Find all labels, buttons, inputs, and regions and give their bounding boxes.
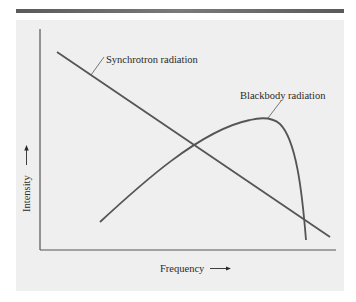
blackbody-leader	[268, 101, 281, 118]
synchrotron-label: Synchrotron radiation	[106, 54, 199, 65]
blackbody-curve	[100, 118, 306, 240]
spectrum-diagram: Synchrotron radiation Blackbody radiatio…	[0, 0, 356, 302]
y-axis-label: Intensity	[21, 175, 32, 212]
x-axis-label: Frequency	[160, 263, 205, 274]
blackbody-label: Blackbody radiation	[240, 90, 326, 101]
synchrotron-leader	[91, 57, 104, 75]
